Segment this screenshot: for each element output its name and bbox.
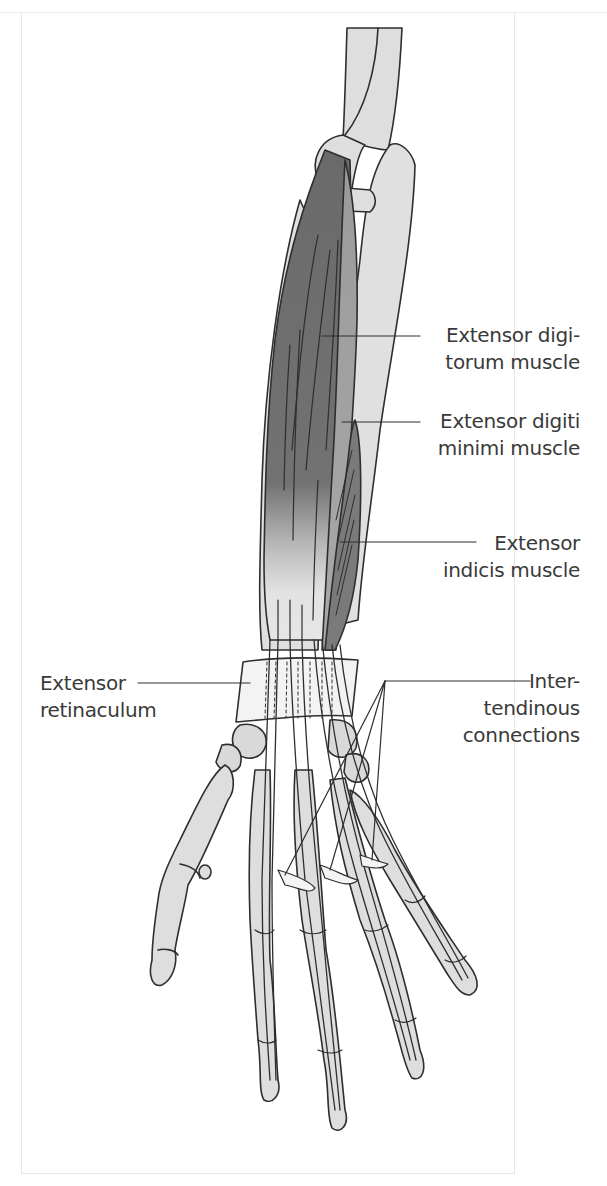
humerus-bone	[343, 28, 402, 150]
label-line: retinaculum	[40, 697, 170, 724]
label-line: torum muscle	[430, 349, 580, 376]
extensor-retinaculum-band	[236, 658, 358, 722]
finger-bones	[249, 770, 477, 1130]
label-line: Extensor digi-	[430, 322, 580, 349]
label-line: minimi muscle	[424, 435, 580, 462]
label-extensor-retinaculum: Extensor retinaculum	[40, 670, 170, 724]
label-line: tendinous	[440, 695, 580, 722]
forearm-hand-illustration	[0, 0, 607, 1186]
label-line: connections	[440, 722, 580, 749]
label-extensor-digitorum: Extensor digi- torum muscle	[430, 322, 580, 376]
thumb-bones	[150, 765, 233, 985]
label-extensor-indicis: Extensor indicis muscle	[430, 530, 580, 584]
label-extensor-digiti-minimi: Extensor digiti minimi muscle	[424, 408, 580, 462]
label-intertendinous-connections: Inter- tendinous connections	[440, 668, 580, 749]
label-line: Inter-	[440, 668, 580, 695]
label-line: indicis muscle	[430, 557, 580, 584]
label-line: Extensor	[40, 670, 170, 697]
label-line: Extensor	[430, 530, 580, 557]
label-line: Extensor digiti	[424, 408, 580, 435]
